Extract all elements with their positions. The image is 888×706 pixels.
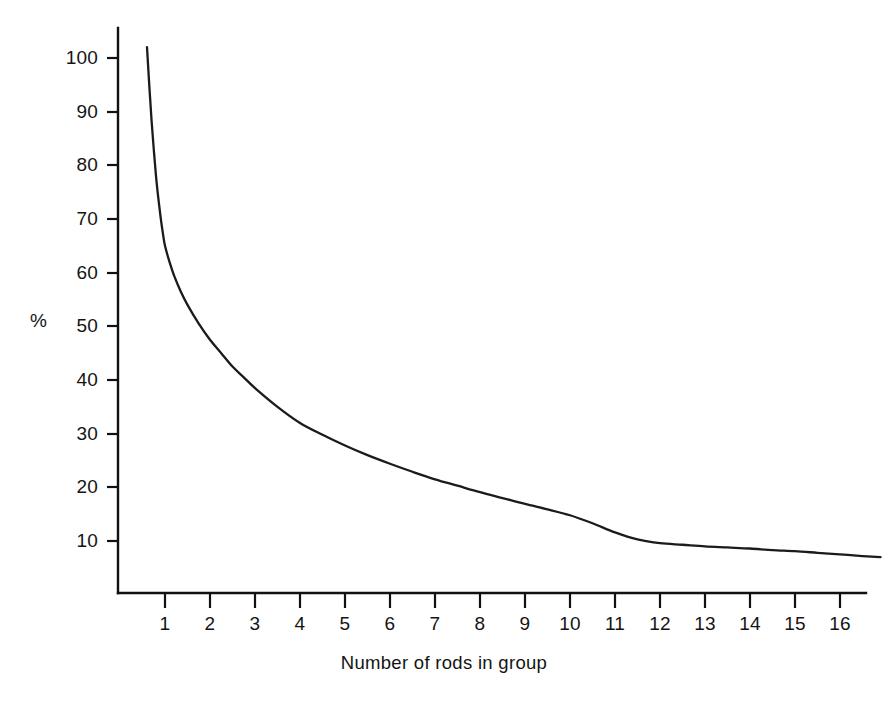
x-tick-label: 10 [559,613,581,635]
x-tick-label: 1 [160,613,171,635]
y-tick-label: 30 [30,423,98,445]
x-tick-label: 9 [520,613,531,635]
x-tick-label: 14 [739,613,761,635]
y-tick-label: 20 [30,476,98,498]
x-tick-label: 2 [205,613,216,635]
y-tick-label: 90 [30,101,98,123]
x-tick-label: 12 [649,613,671,635]
x-tick-label: 13 [694,613,716,635]
x-tick-label: 3 [250,613,261,635]
chart-figure: 102030405060708090100 123456789101112131… [0,0,888,706]
y-tick-label: 40 [30,369,98,391]
x-tick-label: 15 [784,613,806,635]
plot-area [0,0,888,706]
y-tick-label: 100 [30,47,98,69]
x-tick-label: 4 [295,613,306,635]
y-tick-label: 70 [30,208,98,230]
x-tick-label: 6 [385,613,396,635]
y-tick-label: 10 [30,530,98,552]
y-tick-label: 80 [30,154,98,176]
x-tick-marks [165,593,840,608]
x-tick-label: 7 [430,613,441,635]
x-axis-title: Number of rods in group [0,652,888,674]
data-curve-line [147,47,881,557]
y-tick-marks [107,58,118,541]
y-tick-label: 60 [30,262,98,284]
y-axis-title: % [30,310,47,332]
x-tick-label: 8 [475,613,486,635]
x-tick-label: 5 [340,613,351,635]
x-tick-label: 16 [829,613,851,635]
x-tick-label: 11 [605,613,625,635]
